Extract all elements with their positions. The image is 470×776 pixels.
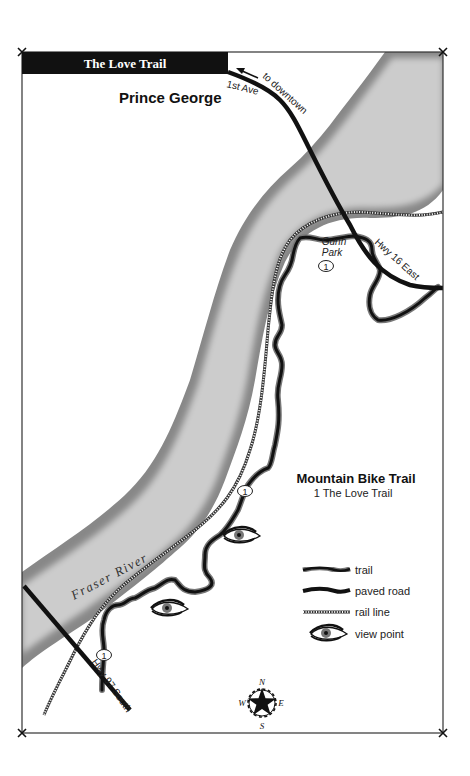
trail-marker-number: 1 — [101, 651, 106, 661]
legend-label: paved road — [355, 585, 410, 597]
city-label: Prince George — [119, 89, 222, 106]
legend: trail paved road rail line view point — [303, 564, 410, 641]
legend-label: trail — [355, 564, 373, 576]
trail-marker[interactable]: 1 — [238, 486, 253, 498]
compass-e: E — [277, 698, 284, 708]
legend-label: view point — [355, 628, 404, 640]
compass-s: S — [260, 721, 265, 731]
legend-item-paved-road: paved road — [303, 585, 410, 597]
trail-map: The Love Trail Prince George 1st Ave to … — [0, 0, 470, 776]
view-point-icon[interactable] — [151, 600, 188, 616]
info-heading: Mountain Bike Trail — [296, 471, 415, 486]
info-item: 1 The Love Trail — [314, 487, 393, 499]
view-point-icon — [310, 625, 347, 641]
legend-item-view-point: view point — [310, 625, 404, 641]
legend-label: rail line — [355, 606, 390, 618]
trail-marker[interactable]: 1 — [97, 650, 112, 662]
trail-marker-number: 1 — [323, 262, 328, 272]
view-point-icon[interactable] — [223, 527, 260, 543]
road-label-hwy97: Hwy 97 South — [89, 657, 134, 714]
park-label-line1: Gunn — [322, 236, 347, 247]
title-bar: The Love Trail — [22, 52, 228, 74]
compass-n: N — [258, 677, 266, 687]
fraser-river — [22, 52, 443, 668]
park-label-line2: Park — [322, 247, 344, 258]
legend-item-rail-line: rail line — [303, 606, 390, 618]
legend-item-trail: trail — [303, 564, 373, 576]
compass-w: W — [238, 698, 247, 708]
trail-marker[interactable]: 1 — [319, 261, 334, 273]
trail-marker-number: 1 — [242, 487, 247, 497]
compass-rose: N E S W — [238, 677, 284, 731]
map-title: The Love Trail — [84, 56, 167, 71]
